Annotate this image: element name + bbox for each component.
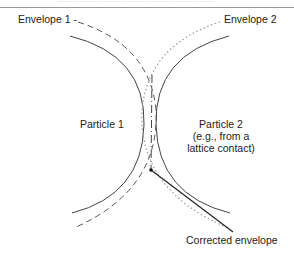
corrected-envelope-pointer bbox=[151, 170, 233, 232]
envelope2-label: Envelope 2 bbox=[224, 13, 277, 25]
particle1-label: Particle 1 bbox=[80, 118, 124, 130]
pointer-dot bbox=[149, 168, 153, 172]
particle2-label: Particle 2 (e.g., from a lattice contact… bbox=[176, 118, 266, 154]
particle2-label-line2: (e.g., from a bbox=[176, 130, 266, 142]
particle2-label-line1: Particle 2 bbox=[176, 118, 266, 130]
corrected-envelope-label: Corrected envelope bbox=[186, 234, 278, 246]
envelope1-label: Envelope 1 - bbox=[18, 13, 77, 25]
particle2-label-line3: lattice contact) bbox=[176, 142, 266, 154]
